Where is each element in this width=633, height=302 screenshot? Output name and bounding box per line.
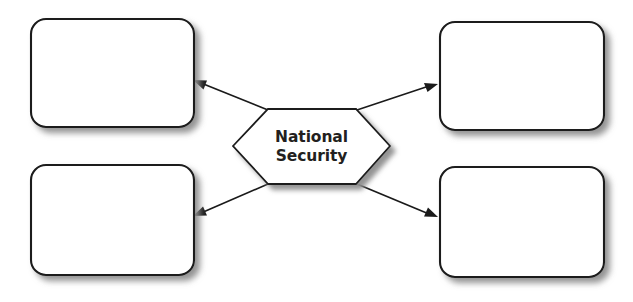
connector-line-top-left [201, 83, 268, 110]
connector-to-bottom-left [193, 184, 268, 216]
connector-to-bottom-right [357, 184, 438, 217]
branch-box-top-left[interactable] [31, 19, 194, 127]
arrowhead-top-left-icon [193, 80, 207, 90]
arrowhead-bottom-right-icon [424, 208, 438, 218]
connector-to-top-left [193, 80, 268, 110]
branch-box-bottom-right[interactable] [440, 167, 604, 277]
connector-line-top-right [357, 86, 429, 110]
arrowhead-bottom-left-icon [193, 207, 207, 217]
connector-line-bottom-left [201, 184, 268, 213]
connector-line-bottom-right [357, 184, 429, 214]
center-hexagon[interactable] [233, 109, 390, 184]
connector-to-top-right [357, 83, 438, 110]
branch-box-bottom-left[interactable] [31, 165, 194, 275]
arrowhead-top-right-icon [424, 83, 438, 92]
diagram-graphics [0, 0, 633, 302]
branch-box-top-right[interactable] [440, 22, 604, 130]
diagram-canvas: National Security [0, 0, 633, 302]
